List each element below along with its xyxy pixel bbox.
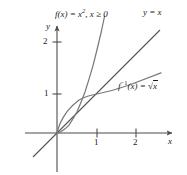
function-label-identity: y = x — [143, 8, 162, 17]
plot-canvas — [0, 0, 187, 175]
function-label-inverse: f−1(x) = √x — [118, 80, 158, 91]
y-axis-label: y — [46, 22, 50, 31]
x-axis-label: x — [168, 137, 172, 146]
function-label-f-prefix: f(x) = x — [55, 9, 82, 19]
radical-sign: √x — [148, 80, 158, 91]
inverse-label-middle: (x) = — [127, 81, 148, 91]
x-tick-label-2: 2 — [133, 138, 138, 147]
figure-container: y x 2 1 1 2 f(x) = x2, x ≥ 0 y = x f−1(x… — [0, 0, 187, 175]
function-label-f: f(x) = x2, x ≥ 0 — [55, 8, 108, 19]
y-tick-label-2: 2 — [43, 37, 48, 46]
function-label-f-suffix: , x ≥ 0 — [85, 9, 107, 19]
y-tick-label-1: 1 — [44, 89, 49, 98]
x-tick-label-1: 1 — [94, 138, 99, 147]
radicand: x — [153, 80, 158, 91]
